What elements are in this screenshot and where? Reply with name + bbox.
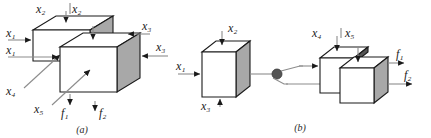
caption-b: (b) <box>294 122 306 134</box>
label-f1: f₁ <box>61 106 69 120</box>
panel-b: x₂ x₁ x₃ x₄ x₅ <box>175 21 412 134</box>
label-b-x2: x₂ <box>227 21 238 35</box>
panel-b-front-cube <box>340 57 388 103</box>
label-b-x3: x₃ <box>200 99 211 113</box>
label-b-f1: f₁ <box>396 47 404 61</box>
junction-dot <box>272 69 282 79</box>
panel-a-front-cube <box>60 33 140 92</box>
caption-a: (a) <box>76 124 88 136</box>
label-b-x1: x₁ <box>175 59 186 73</box>
label-x2-back: x₂ <box>35 2 46 16</box>
wire-branch-upper-seg <box>281 66 303 71</box>
panel-a: x₂ x₂ x₁ x₁ x₃ x₃ x₄ x₅ f₁ f₂ (a) <box>5 2 168 136</box>
figure-two-panel-block-diagram: x₂ x₂ x₁ x₁ x₃ x₃ x₄ x₅ f₁ f₂ (a) <box>0 0 431 138</box>
label-f2: f₂ <box>99 106 107 120</box>
label-b-f2: f₂ <box>404 68 412 82</box>
label-x1-back: x₁ <box>5 26 16 40</box>
b-front-cube-front-face <box>340 68 374 103</box>
label-x3-front: x₃ <box>155 40 166 54</box>
label-x5: x₅ <box>33 102 44 116</box>
input-cube-front-face <box>202 52 236 97</box>
label-b-x4: x₄ <box>311 26 322 40</box>
wire-branch-lower-seg <box>273 78 288 84</box>
panel-b-input-cube <box>202 41 250 97</box>
label-b-x5: x₅ <box>344 26 355 40</box>
label-x1-front: x₁ <box>5 43 16 57</box>
label-x4: x₄ <box>5 84 16 98</box>
label-x2-front: x₂ <box>71 2 82 16</box>
label-x3-back: x₃ <box>141 19 152 33</box>
front-cube-front-face <box>60 47 117 92</box>
